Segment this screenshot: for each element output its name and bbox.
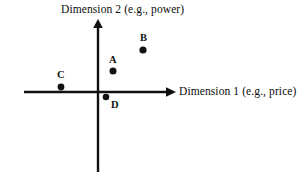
y-axis-group [93, 19, 103, 172]
x-axis-group [24, 87, 176, 97]
data-point-c[interactable] [58, 84, 65, 91]
data-point-a[interactable] [110, 68, 117, 75]
point-label-b: B [140, 33, 147, 44]
scatter-diagram-canvas: Dimension 2 (e.g., power) Dimension 1 (e… [0, 0, 308, 178]
point-label-d: D [111, 100, 119, 111]
right-arrow-icon [166, 87, 176, 97]
y-axis-label: Dimension 2 (e.g., power) [61, 3, 184, 15]
x-axis-label: Dimension 1 (e.g., price) [179, 85, 296, 97]
point-label-c: C [57, 70, 65, 81]
data-point-b[interactable] [139, 46, 146, 53]
up-arrow-icon [93, 19, 103, 28]
point-label-a: A [109, 55, 117, 66]
data-point-d[interactable] [103, 94, 110, 101]
